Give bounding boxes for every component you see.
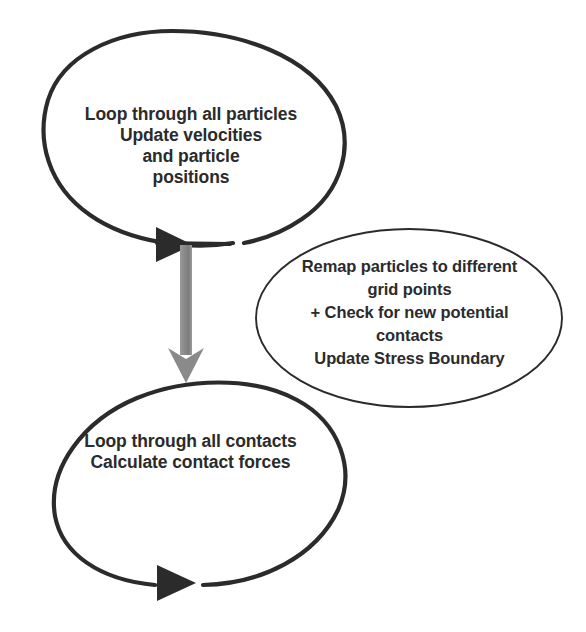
contact-loop-label: Loop through all contacts Calculate cont… bbox=[33, 431, 348, 473]
particle-loop-label: Loop through all particles Update veloci… bbox=[37, 104, 345, 188]
flowchart-diagram: Loop through all particles Update veloci… bbox=[0, 0, 586, 632]
connector-arrow-shaft bbox=[180, 245, 192, 355]
contact-loop-ellipse-outline bbox=[54, 383, 345, 586]
node-contact-loop bbox=[54, 383, 345, 602]
remap-label: Remap particles to different grid points… bbox=[256, 255, 563, 370]
contact-loop-arrowhead-icon bbox=[157, 565, 196, 601]
connector-arrow bbox=[168, 245, 204, 383]
